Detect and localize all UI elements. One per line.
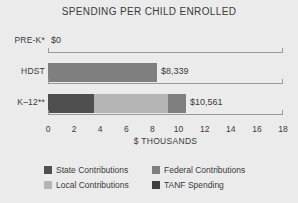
chart-title: SPENDING PER CHILD ENROLLED	[0, 6, 298, 17]
bar-segment-hdst-federal[interactable]	[48, 63, 157, 82]
bar-segment-k12-local[interactable]	[94, 94, 168, 113]
legend-label-tanf: TANF Spending	[164, 180, 224, 190]
plot-area: $0 $8,339 $10,561	[48, 28, 283, 122]
legend-swatch-icon-state	[44, 166, 52, 174]
x-axis-title: $ THOUSANDS	[48, 136, 283, 146]
legend-item-federal[interactable]: Federal Contributions	[152, 165, 260, 175]
bar-value-pre-k: $0	[51, 35, 61, 45]
legend-label-local: Local Contributions	[56, 180, 129, 190]
chart-container: SPENDING PER CHILD ENROLLED PRE-K* HDST …	[0, 0, 298, 203]
bar-value-hdst: $8,339	[161, 66, 189, 76]
chart-legend: State Contributions Federal Contribution…	[44, 162, 260, 192]
legend-item-tanf[interactable]: TANF Spending	[152, 180, 260, 190]
x-tick-16: 16	[252, 124, 261, 134]
axis-line-pre-k	[48, 52, 283, 53]
x-tick-18: 18	[278, 124, 287, 134]
category-label-k12: K–12**	[1, 97, 45, 107]
x-tick-12: 12	[200, 124, 209, 134]
x-tick-4: 4	[98, 124, 103, 134]
bar-value-k12: $10,561	[190, 97, 223, 107]
bar-k12[interactable]	[48, 94, 186, 113]
category-label-pre-k: PRE-K*	[1, 35, 45, 45]
axis-cap-left-k12	[48, 110, 49, 115]
legend-swatch-icon-tanf	[152, 181, 160, 189]
legend-swatch-icon-federal	[152, 166, 160, 174]
category-label-hdst: HDST	[1, 66, 45, 76]
legend-item-local[interactable]: Local Contributions	[44, 180, 152, 190]
legend-item-state[interactable]: State Contributions	[44, 165, 152, 175]
bar-segment-k12-state[interactable]	[48, 94, 94, 113]
x-tick-0: 0	[46, 124, 51, 134]
legend-swatch-icon-local	[44, 181, 52, 189]
axis-cap-left-hdst	[48, 79, 49, 84]
x-tick-14: 14	[226, 124, 235, 134]
legend-label-federal: Federal Contributions	[164, 165, 245, 175]
axis-cap-right-pre-k	[282, 48, 283, 53]
x-tick-6: 6	[124, 124, 129, 134]
category-axis-labels: PRE-K* HDST K–12**	[0, 28, 45, 122]
axis-cap-left-pre-k	[48, 48, 49, 53]
bar-hdst[interactable]	[48, 63, 157, 82]
legend-label-state: State Contributions	[56, 165, 128, 175]
x-tick-2: 2	[72, 124, 77, 134]
x-axis-ticks: 0 2 4 6 8 10 12 14 16 18	[48, 122, 283, 136]
x-tick-8: 8	[150, 124, 155, 134]
axis-line-hdst	[48, 83, 283, 84]
x-tick-10: 10	[174, 124, 183, 134]
axis-cap-right-k12	[282, 110, 283, 115]
bar-segment-k12-federal[interactable]	[168, 94, 186, 113]
axis-line-k12	[48, 114, 283, 115]
axis-cap-right-hdst	[282, 79, 283, 84]
